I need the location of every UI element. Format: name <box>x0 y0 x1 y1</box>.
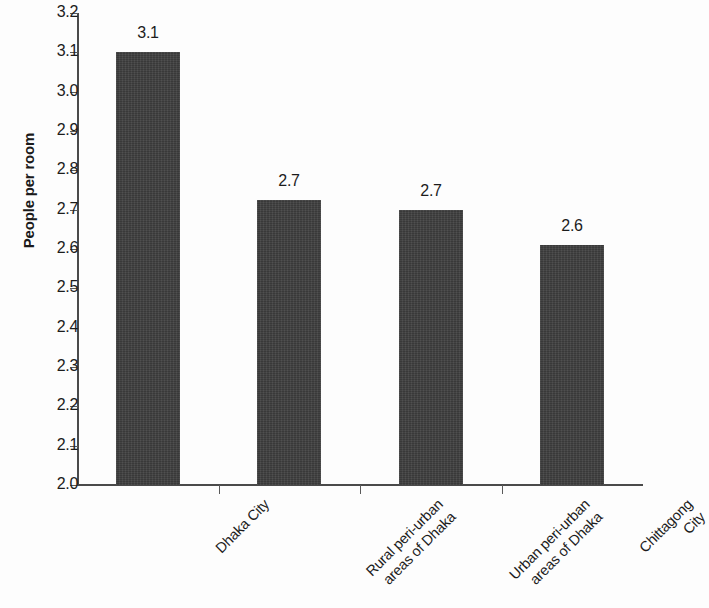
y-axis-tick-label: 2.2 <box>34 396 78 414</box>
x-axis-category-label: Dhaka City <box>212 496 273 557</box>
x-axis-tick-mark <box>360 485 361 494</box>
y-axis-tick-label: 2.8 <box>34 160 78 178</box>
y-axis-tick-label: 2.1 <box>34 436 78 454</box>
x-axis-category-label: Rural peri-urban areas of Dhaka <box>363 496 460 593</box>
y-axis-tick-label: 2.9 <box>34 121 78 139</box>
y-axis-tick-label: 3.0 <box>34 82 78 100</box>
bar <box>116 52 180 485</box>
x-axis-tick-mark <box>502 485 503 494</box>
x-axis-category-label: Urban peri-urban areas of Dhaka <box>506 496 606 596</box>
bar <box>540 245 604 485</box>
x-axis-category-label: Chittagong City <box>636 496 709 569</box>
y-axis-tick-label: 3.1 <box>34 42 78 60</box>
y-axis-tick-label: 2.7 <box>34 200 78 218</box>
y-axis-tick-label: 2.3 <box>34 357 78 375</box>
bar-value-label: 2.7 <box>391 182 471 200</box>
bar-value-label: 2.7 <box>249 172 329 190</box>
bar <box>399 210 463 485</box>
y-axis-tick-label: 3.2 <box>34 3 78 21</box>
y-axis-tick-label: 2.5 <box>34 278 78 296</box>
bar <box>257 200 321 485</box>
bar-value-label: 2.6 <box>532 217 612 235</box>
y-axis-tick-label: 2.6 <box>34 239 78 257</box>
x-axis-tick-mark <box>219 485 220 494</box>
bar-value-label: 3.1 <box>108 24 188 42</box>
y-axis-tick-label: 2.4 <box>34 318 78 336</box>
y-axis-tick-label: 2.0 <box>34 475 78 493</box>
